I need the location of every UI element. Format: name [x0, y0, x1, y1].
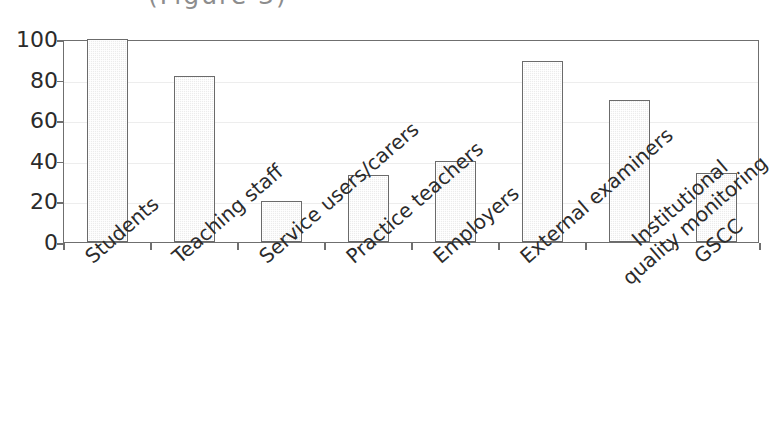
bar-chart: (Figure 3) 020406080100 StudentsTeaching… [0, 0, 772, 433]
y-tick-label: 40 [0, 151, 58, 173]
title-fragment: (Figure 3) [0, 0, 772, 13]
title-fragment-text: (Figure 3) [148, 0, 288, 10]
y-tick-label: 80 [0, 70, 58, 92]
x-axis-labels: StudentsTeaching staffService users/care… [0, 243, 772, 433]
gridline [64, 82, 758, 83]
y-tick-label: 20 [0, 191, 58, 213]
bar [87, 39, 128, 242]
y-tick-label: 60 [0, 110, 58, 132]
y-tick-label: 100 [0, 29, 58, 51]
gridline [64, 163, 758, 164]
